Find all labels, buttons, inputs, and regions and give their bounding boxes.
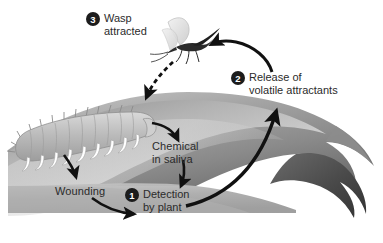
step-2-label: Release of volatile attractants bbox=[249, 71, 338, 96]
wasp bbox=[150, 18, 220, 64]
step-3-wasp-attracted: 3 Wasp attracted bbox=[86, 12, 147, 37]
plant-defense-diagram: 3 Wasp attracted 2 Release of volatile a… bbox=[0, 0, 383, 243]
arrow-wasp-to-caterpillar bbox=[147, 62, 173, 96]
step-3-badge: 3 bbox=[86, 12, 100, 26]
wasp-antennae bbox=[150, 52, 168, 62]
step-2-badge: 2 bbox=[231, 71, 245, 85]
step-1-label: Detection by plant bbox=[143, 188, 189, 213]
label-wounding: Wounding bbox=[55, 185, 105, 198]
diagram-canvas bbox=[0, 0, 383, 243]
step-1-badge: 1 bbox=[125, 188, 139, 202]
step-1-detection-by-plant: 1 Detection by plant bbox=[125, 188, 189, 213]
step-3-label: Wasp attracted bbox=[104, 12, 147, 37]
arrow-release-to-wasp bbox=[212, 41, 272, 72]
step-2-release-volatiles: 2 Release of volatile attractants bbox=[231, 71, 338, 96]
label-chemical-in-saliva: Chemical in saliva bbox=[152, 140, 199, 165]
